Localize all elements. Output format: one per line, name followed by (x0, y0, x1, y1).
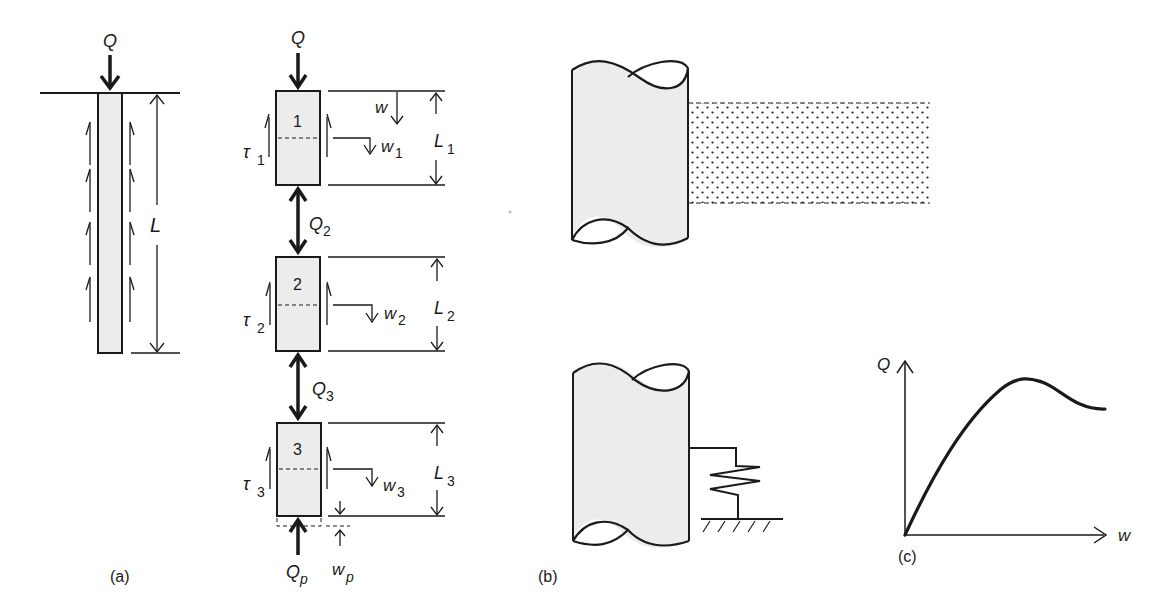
shear-label: τ (243, 474, 251, 494)
interface-force-subscript: 2 (323, 223, 331, 239)
segmented-pile: Q 1 τ 1 (243, 28, 455, 587)
segment-number: 1 (293, 113, 302, 130)
load-arrow-icon (101, 55, 119, 88)
load-displacement-curve (905, 379, 1105, 535)
disp-label: w (384, 304, 398, 323)
top-load-arrow-icon (290, 53, 306, 87)
shear-subscript: 2 (257, 320, 265, 336)
load-label: Q (103, 31, 117, 51)
pile-load-transfer-diagram: Q L (a) Q (0, 0, 1174, 605)
y-axis (897, 361, 913, 535)
x-axis-label: w (1118, 526, 1132, 545)
x-axis (905, 527, 1106, 543)
pile-tip: Q p w p (277, 518, 354, 587)
tip-disp-subscript: p (345, 569, 354, 585)
panel-a-caption: (a) (110, 568, 130, 585)
segment-number: 2 (293, 276, 302, 293)
disp-subscript: 3 (397, 484, 405, 500)
shear-label: τ (243, 142, 251, 162)
length-subscript: 1 (447, 141, 455, 157)
shear-subscript: 3 (257, 484, 265, 500)
length-subscript: 2 (447, 308, 455, 324)
pile-segment-bottom (573, 363, 689, 548)
length-subscript: 3 (447, 473, 455, 489)
interface-force-q3: Q 3 (290, 355, 334, 418)
segment-2: 2 τ 2 w 2 L 2 (243, 257, 455, 351)
panel-c-caption: (c) (898, 548, 917, 565)
tip-load-label: Q (286, 562, 300, 582)
shear-subscript: 1 (257, 152, 265, 168)
panel-c-chart: Q w (c) (877, 355, 1132, 565)
stray-mark (509, 211, 512, 214)
tip-disp-label: w (332, 560, 346, 579)
interface-force-q2: Q 2 (290, 189, 331, 252)
panel-a: Q L (a) (40, 31, 180, 585)
pile-segment-top (572, 60, 688, 247)
length-label: L (434, 463, 444, 483)
ground-hatch-icon (703, 521, 770, 532)
interface-force-label: Q (312, 379, 326, 399)
soil-dotted-region (688, 103, 930, 203)
pile-shaft (98, 93, 122, 353)
soil-spring-icon (689, 448, 783, 519)
disp-label: w (381, 137, 395, 156)
general-disp-label: w (375, 98, 389, 117)
top-load-label: Q (291, 28, 305, 48)
interface-force-subscript: 3 (326, 388, 334, 404)
segment-number: 3 (293, 441, 302, 458)
segment-3: 3 τ 3 w 3 L 3 (243, 423, 455, 516)
panel-b-caption: (b) (538, 568, 558, 585)
y-axis-label: Q (877, 355, 890, 374)
segment-1: 1 τ 1 (243, 91, 455, 185)
disp-label: w (383, 476, 397, 495)
interface-force-label: Q (309, 214, 323, 234)
length-label: L (150, 214, 161, 236)
shear-label: τ (243, 310, 251, 330)
tip-load-subscript: p (299, 571, 308, 587)
disp-subscript: 2 (398, 312, 406, 328)
disp-subscript: 1 (395, 145, 403, 161)
length-label: L (434, 131, 444, 151)
panel-b: (b) (538, 60, 930, 585)
length-label: L (434, 298, 444, 318)
